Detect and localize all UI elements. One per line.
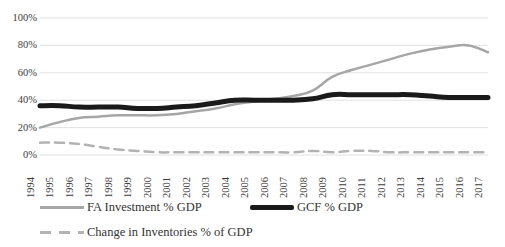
data-series-group (40, 45, 488, 152)
gridlines (40, 18, 488, 155)
legend-item-fa-investment[interactable]: FA Investment % GDP (40, 196, 202, 218)
x-axis-tick-label: 2000 (142, 158, 153, 198)
x-axis-tick-label: 2001 (161, 158, 172, 198)
x-axis: 1994199519961997199819992000200120022003… (40, 158, 488, 198)
legend-row-2: Change in Inventories % of GDP (0, 221, 505, 243)
x-axis-tick-label: 1998 (103, 158, 114, 198)
legend-swatch-line-icon (250, 201, 294, 213)
x-axis-tick-label: 2014 (415, 158, 426, 198)
legend-item-label: GCF % GDP (297, 200, 363, 214)
series-line (40, 45, 488, 128)
x-axis-tick-label: 1999 (122, 158, 133, 198)
x-axis-tick-label: 1997 (83, 158, 94, 198)
x-axis-tick-label: 2017 (473, 158, 484, 198)
legend-item-gcf[interactable]: GCF % GDP (250, 196, 363, 218)
x-axis-tick-label: 2005 (239, 158, 250, 198)
x-axis-tick-label: 2015 (434, 158, 445, 198)
x-axis-tick-label: 1994 (25, 158, 36, 198)
x-axis-tick-label: 2011 (356, 158, 367, 198)
x-axis-tick-label: 2002 (181, 158, 192, 198)
series-line (40, 143, 488, 153)
legend-item-label: Change in Inventories % of GDP (87, 225, 253, 239)
x-axis-tick-label: 2003 (200, 158, 211, 198)
x-axis-tick-label: 2013 (395, 158, 406, 198)
legend-item-label: FA Investment % GDP (87, 200, 202, 214)
x-axis-tick-label: 2010 (337, 158, 348, 198)
chart-container: 100%80%60%40%20%0% 199419951996199719981… (0, 0, 505, 247)
x-axis-tick-label: 2007 (278, 158, 289, 198)
x-axis-tick-label: 2006 (259, 158, 270, 198)
x-axis-tick-label: 1996 (64, 158, 75, 198)
legend-row-1: FA Investment % GDP GCF % GDP (0, 196, 505, 218)
x-axis-tick-label: 2008 (298, 158, 309, 198)
legend-item-change-in-inventories[interactable]: Change in Inventories % of GDP (40, 221, 253, 243)
chart-legend: FA Investment % GDP GCF % GDP Change in … (0, 196, 505, 247)
x-axis-tick-label: 2004 (220, 158, 231, 198)
legend-swatch-line-icon (40, 201, 84, 213)
x-axis-tick-label: 2012 (376, 158, 387, 198)
legend-swatch-dashed-line-icon (40, 226, 84, 238)
series-line (40, 94, 488, 108)
x-axis-tick-label: 2016 (454, 158, 465, 198)
x-axis-tick-label: 1995 (44, 158, 55, 198)
x-axis-tick-label: 2009 (317, 158, 328, 198)
